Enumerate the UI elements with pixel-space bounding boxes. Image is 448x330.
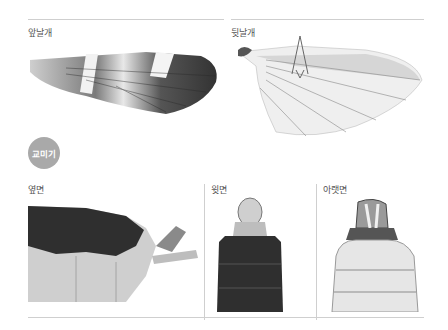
dorsal-genitalia-image [215,196,315,312]
divider-1 [204,184,205,320]
ventral-view-label: 아랫면 [323,183,347,196]
divider-2 [316,184,317,320]
forewing-label: 앞날개 [28,26,52,39]
ventral-genitalia-image [326,196,426,312]
lateral-genitalia-image [26,206,202,306]
lateral-view-label: 옆면 [28,183,44,196]
hindwing-image [236,36,426,140]
top-rule-right [231,19,424,20]
forewing-image [26,48,222,118]
bottom-rule [28,317,424,318]
section-badge: 교미기 [28,137,60,169]
dorsal-view-label: 윗면 [211,183,227,196]
top-rule-left [28,19,224,20]
